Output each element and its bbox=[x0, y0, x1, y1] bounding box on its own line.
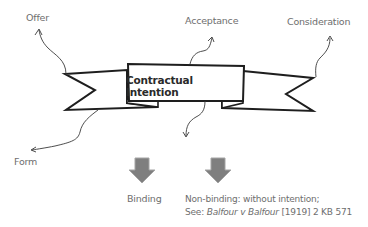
banner-title: Contractual Intention bbox=[126, 71, 244, 101]
label-offer: Offer bbox=[26, 12, 49, 23]
label-consideration: Consideration bbox=[287, 16, 350, 27]
connector-consideration bbox=[316, 36, 333, 77]
connector-offer bbox=[35, 29, 66, 74]
connector-acceptance bbox=[190, 37, 214, 64]
connector-form bbox=[31, 110, 98, 152]
non-binding-line-1: Non-binding: without intention; bbox=[185, 193, 352, 206]
see-prefix: See: bbox=[185, 207, 207, 217]
label-form: Form bbox=[14, 156, 37, 167]
case-name: Balfour v Balfour bbox=[207, 207, 279, 217]
label-acceptance: Acceptance bbox=[185, 15, 238, 26]
non-binding-line-2: See: Balfour v Balfour [1919] 2 KB 571 bbox=[185, 206, 352, 219]
non-binding-note: Non-binding: without intention; See: Bal… bbox=[185, 193, 352, 219]
label-binding: Binding bbox=[127, 193, 162, 204]
binding-down-arrow-icon bbox=[129, 158, 155, 183]
connector-down bbox=[183, 101, 205, 137]
non-binding-down-arrow-icon bbox=[205, 158, 231, 183]
contractual-intention-diagram: Offer Acceptance Consideration Form Cont… bbox=[0, 0, 368, 227]
case-citation: [1919] 2 KB 571 bbox=[279, 207, 352, 217]
